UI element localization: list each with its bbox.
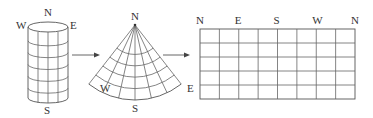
- cylinder-label-e: E: [70, 19, 77, 31]
- cylinder-grid: [28, 32, 68, 103]
- cone-apex: [134, 24, 137, 27]
- cone-label-n: N: [131, 10, 139, 22]
- cylinder-label-w: W: [16, 19, 27, 31]
- projection-diagram: N W E S N W E S NESWN: [0, 0, 373, 118]
- grid-label-n: N: [351, 14, 359, 26]
- grid-label-w: W: [312, 14, 323, 26]
- grid-label-n: N: [196, 14, 204, 26]
- cylinder-label-s: S: [44, 104, 50, 116]
- grid-label-e: E: [235, 14, 242, 26]
- cylinder: N W E S: [16, 6, 77, 116]
- arrow-head-icon: [94, 53, 100, 58]
- arrow-2: [163, 53, 190, 58]
- arrow-head-icon: [184, 53, 190, 58]
- cone-unrolled: N W E S: [89, 10, 194, 114]
- grid-label-s: S: [274, 14, 280, 26]
- arrow-1: [72, 53, 100, 58]
- cone-label-s: S: [132, 102, 138, 114]
- cone-label-e: E: [187, 82, 194, 94]
- cylinder-label-n: N: [44, 6, 52, 18]
- cylinder-top: [28, 22, 68, 32]
- grid-top-labels: NESWN: [196, 14, 359, 26]
- flat-grid: [200, 29, 355, 99]
